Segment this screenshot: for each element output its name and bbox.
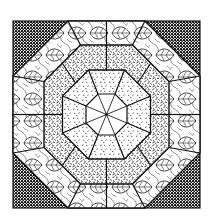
center-point <box>105 113 108 116</box>
quilt-block-illustration <box>0 0 212 220</box>
